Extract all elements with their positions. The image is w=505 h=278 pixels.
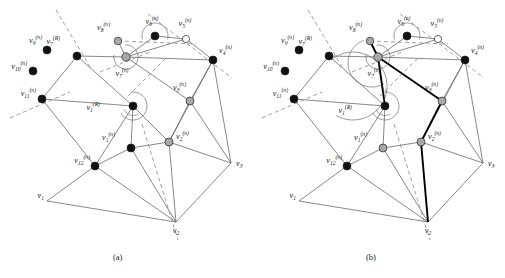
panel_a-edge [133,106,169,142]
figure-canvas: v1(R)v7(R)v1(n)v2(n)v3(n)v4(n)v5(n)v6(n)… [0,0,505,278]
panel_a-node-v4n[interactable] [209,56,217,64]
panel_b-node-v2n[interactable] [417,138,425,146]
panel_a-label-v1: v1 [38,191,45,201]
panel_b-edge [421,142,483,163]
panel_a-label-v3n: v3(n) [173,81,186,94]
panel_b-bold-edge [378,57,442,101]
panel_b-group: v1(R)v7(R)v1(n)v2(n)v3(n)v4(n)v5(n)v6(n)… [262,10,495,240]
panel_b-label-v2n: v2(n) [428,130,441,143]
panel_b-edge [299,201,428,222]
panel_a-edge [176,163,231,222]
panel_a-node-v11n[interactable] [38,95,46,103]
panel_b-edge [294,56,329,99]
panel_b-node-v11n[interactable] [290,95,298,103]
panel_a-node-v8n[interactable] [114,37,122,45]
panel_a-edge [126,57,213,60]
panel_b-node-v4n[interactable] [461,56,469,64]
panel_b-node-v5n[interactable] [434,35,441,42]
panel_a-node-v2n[interactable] [165,138,173,146]
panel_b-label-v7R: v7(R) [298,35,312,48]
panel_a-edge [126,36,155,57]
panel_b-edge [428,163,483,222]
panel_b-dashed-guide [308,10,344,70]
panel_a-dashed-guide [128,58,166,96]
panel_b-bold-edge [421,142,428,222]
panel_b-node-v6n[interactable] [403,32,411,40]
panel_a-edge [169,142,231,163]
panel_b-node-v7R[interactable] [325,52,333,60]
panel_a-label-v6n: v6(n) [146,15,159,28]
panel_b-label-v1: v1 [290,191,297,201]
panel_b-label-v6n: v6(n) [398,15,411,28]
panel_a-node-v7n[interactable] [122,53,130,61]
diagram-svg: v1(R)v7(R)v1(n)v2(n)v3(n)v4(n)v5(n)v6(n)… [0,0,505,278]
panel_b-edge [442,101,483,163]
panel_b-label-v3n: v3(n) [425,81,438,94]
panel_b-edge [299,166,347,201]
panel_a-label-v3: v3 [236,159,243,169]
panel_a-node-v10n[interactable] [29,67,37,75]
panel_a-edge [77,56,126,57]
panel_a-label-v2: v2 [173,226,180,236]
panel_b-node-v1n[interactable] [379,144,387,152]
panel_a-edge [155,36,186,39]
panel_b-label-v10n: v10(n) [263,60,279,73]
panel_a-group: v1(R)v7(R)v1(n)v2(n)v3(n)v4(n)v5(n)v6(n)… [10,10,243,240]
panel_a-edge [47,166,95,201]
panel_a-edge [126,57,190,101]
panel_a-edge [190,101,231,163]
panel_b-edge [294,99,385,106]
panel_a-edge [131,106,133,148]
panel_b-node-v8n[interactable] [366,37,374,45]
panel_a-label-v11n: v11(n) [21,87,36,100]
panel_b-edge [407,36,438,39]
panel_a-node-v12n[interactable] [91,162,99,170]
panel_a-node-v1R[interactable] [129,102,137,110]
panel_a-edge [77,56,133,106]
panel_a-label-v2n: v2(n) [176,130,189,143]
panel_b-label-v2: v2 [425,226,432,236]
panel_b-node-v3n[interactable] [438,97,446,105]
panel_b-label-v9n: v9(n) [281,34,294,47]
panel_a-label-v4n: v4(n) [219,44,232,57]
panel_a-node-v5n[interactable] [182,35,189,42]
panel-a-caption: (a) [113,252,122,262]
panel_b-node-v1R[interactable] [381,102,389,110]
panel_a-node-v3n[interactable] [186,97,194,105]
panel_b-node-v12n[interactable] [343,162,351,170]
panel_a-label-v5n: v5(n) [179,17,192,30]
panel_a-label-v7R: v7(R) [46,35,60,48]
panel_a-label-v10n: v10(n) [11,60,27,73]
panel_b-edge [378,36,407,57]
panel_a-label-v9n: v9(n) [29,34,42,47]
panel_b-angle-arc [376,109,390,115]
panel-b-caption: (b) [366,252,376,262]
panel_a-label-v7n: v7(n) [116,67,129,80]
panel_b-label-v5n: v5(n) [431,17,444,30]
panel_a-edge [42,56,77,99]
panel_b-label-v3: v3 [488,159,495,169]
panel_b-edge [383,142,421,148]
panel_a-edge [131,142,169,148]
panel_b-label-v11n: v11(n) [273,87,288,100]
panel_b-edge [329,56,385,106]
panel_b-node-v7n[interactable] [374,53,382,61]
panel_a-dashed-guide [56,10,92,70]
panel_a-label-v12n: v12(n) [74,154,90,167]
panel_a-label-v1R: v1(R) [86,101,100,114]
panel_a-angle-arc [124,109,138,115]
panel_a-edge [186,39,213,60]
panel_b-edge [383,106,385,148]
panel_b-label-v7n: v7(n) [368,67,381,80]
panel_b-label-v1R: v1(R) [338,104,352,117]
panel_b-node-v10n[interactable] [281,67,289,75]
panel_b-edge [378,57,465,60]
panel_a-edge [47,201,176,222]
panel_a-node-v6n[interactable] [151,32,159,40]
panel_b-label-v8n: v8(n) [349,21,362,34]
panel_b-edge [438,39,465,60]
panel_a-label-v8n: v8(n) [97,21,110,34]
panel_a-node-v7R[interactable] [73,52,81,60]
panel_a-node-v1n[interactable] [127,144,135,152]
panel_b-label-v4n: v4(n) [471,44,484,57]
